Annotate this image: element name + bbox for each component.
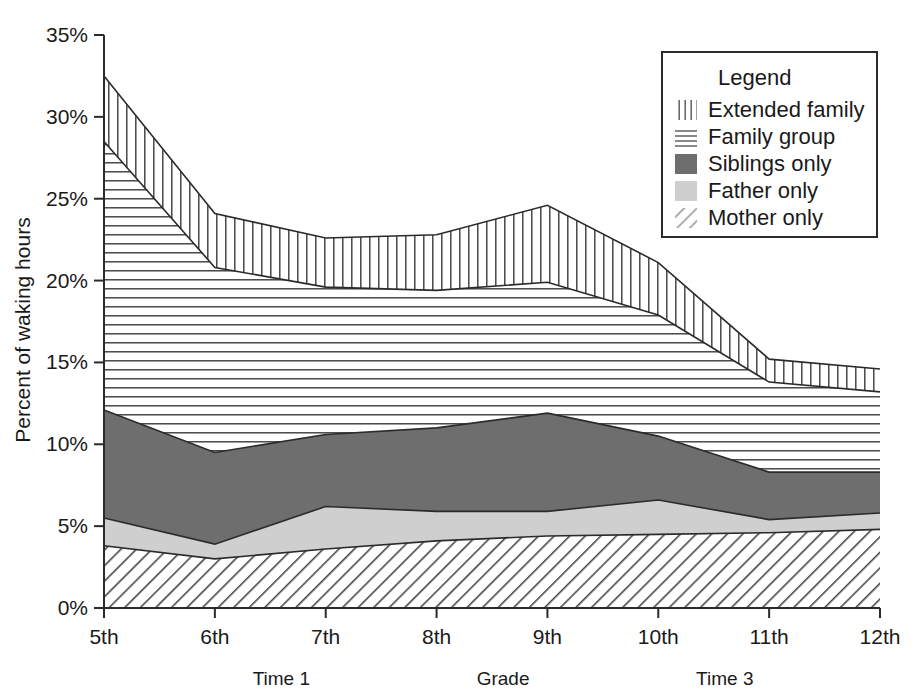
y-tick-label: 20%: [46, 269, 88, 292]
x-tick-label: 11th: [749, 625, 788, 648]
x-tick-label: 9th: [533, 625, 562, 648]
y-tick-label: 25%: [46, 187, 88, 210]
y-tick-label: 30%: [46, 105, 88, 128]
x-phase-label: Time 1: [253, 668, 310, 689]
legend-label: Siblings only: [708, 151, 832, 176]
x-tick-label: 5th: [89, 625, 118, 648]
y-tick-label: 10%: [46, 432, 88, 455]
legend-title: Legend: [718, 65, 791, 90]
legend-label: Extended family: [708, 97, 865, 122]
legend-label: Family group: [708, 124, 835, 149]
y-axis: 0%5%10%15%20%25%30%35% Percent of waking…: [11, 23, 104, 619]
y-tick-label: 5%: [58, 514, 88, 537]
legend: Legend Extended familyFamily groupSiblin…: [662, 52, 877, 237]
x-tick-label: 8th: [422, 625, 451, 648]
x-phase-label: Time 3: [696, 668, 753, 689]
stacked-area-chart: 0%5%10%15%20%25%30%35% Percent of waking…: [0, 0, 917, 694]
x-tick-label: 12th: [860, 625, 901, 648]
x-axis: 5th6th7th8th9th10th11th12th Time 1GradeT…: [89, 608, 900, 689]
x-tick-label: 6th: [200, 625, 229, 648]
legend-label: Father only: [708, 178, 818, 203]
x-tick-label: 10th: [638, 625, 679, 648]
x-tick-group: 5th6th7th8th9th10th11th12th: [89, 608, 900, 648]
x-phase-annotations: Time 1GradeTime 3: [253, 668, 754, 689]
y-tick-label: 15%: [46, 350, 88, 373]
y-axis-title: Percent of waking hours: [11, 217, 34, 442]
y-tick-label: 0%: [58, 596, 88, 619]
x-tick-label: 7th: [311, 625, 340, 648]
legend-swatch: [675, 127, 697, 147]
chart-container: 0%5%10%15%20%25%30%35% Percent of waking…: [0, 0, 917, 694]
legend-swatch: [675, 181, 697, 201]
x-phase-label: Grade: [477, 668, 530, 689]
legend-item-father-only[interactable]: Father only: [675, 178, 818, 203]
legend-label: Mother only: [708, 205, 823, 230]
legend-swatch: [675, 100, 697, 120]
y-tick-label: 35%: [46, 23, 88, 46]
legend-swatch: [675, 208, 697, 228]
legend-swatch: [675, 154, 697, 174]
y-tick-group: 0%5%10%15%20%25%30%35%: [46, 23, 104, 619]
